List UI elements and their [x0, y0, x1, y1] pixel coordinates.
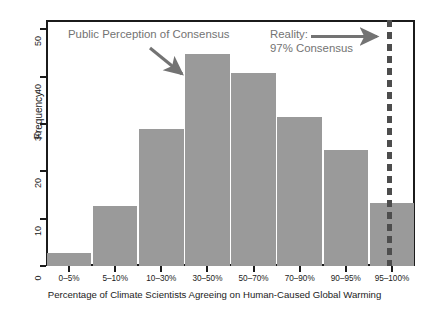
y-tick-label-30: 30 [33, 123, 43, 149]
x-tick-1 [114, 266, 116, 272]
x-tick-3 [206, 266, 208, 272]
x-tick-7 [391, 266, 393, 272]
y-tick-label-0: 0 [33, 265, 43, 291]
y-tick-label-40: 40 [33, 76, 43, 102]
chart-figure: Frequency 01020304050 0–5%5–10%10–30%30–… [0, 0, 429, 317]
x-tick-0 [68, 266, 70, 272]
annotation-public-perception-text: Public Perception of Consensus [68, 28, 229, 40]
x-tick-5 [299, 266, 301, 272]
bar-5-10-percent [93, 206, 138, 266]
bar-50-70-percent [231, 73, 276, 266]
y-tick-label-20: 20 [33, 170, 43, 196]
x-tick-6 [345, 266, 347, 272]
x-tick-label-5: 70–90% [285, 274, 315, 283]
bar-30-50-percent [185, 54, 230, 266]
y-tick-label-50: 50 [33, 28, 43, 54]
x-tick-2 [160, 266, 162, 272]
plot-area [46, 20, 415, 266]
x-tick-4 [253, 266, 255, 272]
x-tick-label-6: 90–95% [331, 274, 361, 283]
annotation-reality: Reality: 97% Consensus [270, 27, 353, 55]
x-tick-label-2: 10–30% [146, 274, 176, 283]
y-axis-label: Frequency [33, 56, 44, 176]
annotation-reality-line2: 97% Consensus [270, 41, 353, 55]
bar-10-30-percent [139, 129, 184, 266]
x-tick-label-3: 30–50% [192, 274, 222, 283]
y-tick-label-10: 10 [33, 218, 43, 244]
bar-0-5-percent [47, 253, 92, 266]
x-tick-label-7: 95–100% [375, 274, 410, 283]
bar-90-95-percent [324, 150, 369, 266]
reference-line-97-percent [387, 20, 392, 266]
x-tick-label-1: 5–10% [102, 274, 128, 283]
x-tick-label-4: 50–70% [239, 274, 269, 283]
annotation-reality-line1: Reality: [270, 28, 308, 40]
annotation-public-perception: Public Perception of Consensus [68, 27, 229, 41]
x-tick-label-0: 0–5% [59, 274, 80, 283]
bar-70-90-percent [277, 117, 322, 266]
x-axis-label: Percentage of Climate Scientists Agreein… [0, 289, 429, 300]
